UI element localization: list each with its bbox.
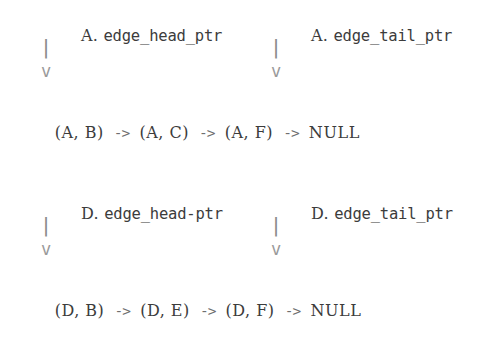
list-terminator: NULL bbox=[309, 123, 360, 142]
diagram-page: A. edge_head_ptr A. edge_tail_ptr | v | … bbox=[0, 0, 486, 357]
down-arrow-icon-tail-a: | v bbox=[266, 34, 286, 82]
edge-node: (A, C) bbox=[139, 123, 188, 142]
list-separator: -> bbox=[115, 303, 130, 319]
arrow-row-a: | v | v bbox=[0, 34, 486, 96]
list-separator: -> bbox=[283, 125, 298, 141]
down-arrow-icon-tail-d: | v bbox=[266, 212, 286, 260]
list-separator: -> bbox=[199, 125, 214, 141]
arrow-shaft: | bbox=[266, 34, 286, 60]
list-separator: -> bbox=[285, 303, 300, 319]
edge-node: (A, F) bbox=[225, 123, 273, 142]
down-arrow-icon-head-a: | v bbox=[36, 34, 56, 82]
edge-list-d: (D, B) -> (D, E) -> (D, F) -> NULL bbox=[0, 274, 486, 318]
edge-node: (D, E) bbox=[140, 301, 190, 320]
edge-node: (D, F) bbox=[226, 301, 275, 320]
arrow-row-d: | v | v bbox=[0, 212, 486, 274]
arrow-shaft: | bbox=[36, 212, 56, 238]
edge-list-text-d: (D, B) -> (D, E) -> (D, F) -> NULL bbox=[14, 278, 362, 344]
header-row-d: D. edge_head-ptr D. edge_tail_ptr bbox=[0, 178, 486, 212]
list-terminator: NULL bbox=[310, 301, 361, 320]
arrow-head: v bbox=[266, 238, 286, 260]
arrow-head: v bbox=[36, 238, 56, 260]
adjacency-block-a: A. edge_head_ptr A. edge_tail_ptr | v | … bbox=[0, 0, 486, 140]
adjacency-block-d: D. edge_head-ptr D. edge_tail_ptr | v | … bbox=[0, 178, 486, 318]
arrow-shaft: | bbox=[36, 34, 56, 60]
arrow-head: v bbox=[266, 60, 286, 82]
edge-list-a: (A, B) -> (A, C) -> (A, F) -> NULL bbox=[0, 96, 486, 140]
edge-node: (D, B) bbox=[55, 301, 105, 320]
list-separator: -> bbox=[200, 303, 215, 319]
arrow-head: v bbox=[36, 60, 56, 82]
header-row-a: A. edge_head_ptr A. edge_tail_ptr bbox=[0, 0, 486, 34]
edge-node: (A, B) bbox=[55, 123, 104, 142]
arrow-shaft: | bbox=[266, 212, 286, 238]
list-separator: -> bbox=[114, 125, 129, 141]
down-arrow-icon-head-d: | v bbox=[36, 212, 56, 260]
edge-list-text-a: (A, B) -> (A, C) -> (A, F) -> NULL bbox=[14, 100, 360, 166]
